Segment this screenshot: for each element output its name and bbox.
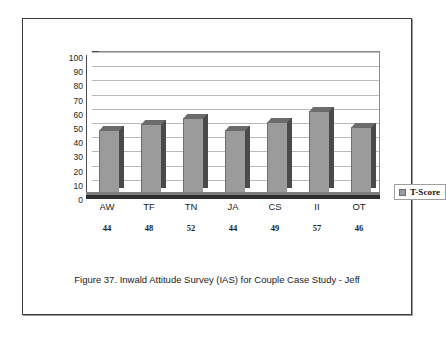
chart-legend: T-Score — [394, 184, 446, 200]
data-value-row: 44485244495746 — [86, 223, 380, 237]
x-axis-labels: AWTFTNJACSIIOT — [86, 201, 380, 215]
bar-top-face — [99, 126, 123, 131]
bar-front-face — [309, 111, 329, 192]
y-axis-tick-label: 90 — [57, 68, 83, 76]
legend-label-t-score: T-Score — [410, 187, 440, 197]
plot-area — [86, 51, 380, 199]
y-axis-tick-label: 20 — [57, 168, 83, 176]
x-axis-tick-label: TN — [170, 201, 212, 213]
gridline — [92, 123, 379, 124]
bar-front-face — [351, 127, 371, 192]
bar-chart: 1009080706050403020100 AWTFTNJACSIIOT 44… — [57, 51, 387, 251]
bar-top-face — [309, 107, 333, 112]
data-value-ii: 57 — [296, 223, 338, 234]
y-axis-tick-label: 70 — [57, 97, 83, 105]
bar-front-face — [267, 122, 287, 192]
gridline — [92, 109, 379, 110]
bar-tf — [141, 124, 161, 192]
x-axis-tick-label: JA — [212, 201, 254, 213]
bar-cs — [267, 122, 287, 192]
document-page-frame: 1009080706050403020100 AWTFTNJACSIIOT 44… — [22, 18, 412, 315]
bar-ot — [351, 127, 371, 192]
x-axis-tick-label: II — [296, 201, 338, 213]
bar-top-face — [141, 120, 165, 125]
gridline — [92, 80, 379, 81]
bar-side-face — [161, 120, 166, 188]
gridline — [92, 95, 379, 96]
bar-side-face — [287, 118, 292, 188]
bar-front-face — [183, 118, 203, 192]
figure-caption: Figure 37. Inwald Attitude Survey (IAS) … — [23, 274, 411, 285]
bar-side-face — [245, 126, 250, 188]
data-value-ja: 44 — [212, 223, 254, 234]
bar-ja — [225, 130, 245, 192]
bar-aw — [99, 130, 119, 192]
data-value-cs: 49 — [254, 223, 296, 234]
x-axis-tick-label: AW — [86, 201, 128, 213]
bar-top-face — [351, 123, 375, 128]
data-value-tn: 52 — [170, 223, 212, 234]
bar-front-face — [141, 124, 161, 192]
data-value-ot: 46 — [338, 223, 380, 234]
gridline — [92, 52, 379, 53]
y-axis-tick-label: 10 — [57, 182, 83, 190]
y-axis-tick-label: 0 — [57, 196, 83, 204]
y-axis-labels: 1009080706050403020100 — [57, 51, 83, 199]
x-axis-tick-label: CS — [254, 201, 296, 213]
bar-side-face — [203, 114, 208, 188]
x-axis-tick-label: TF — [128, 201, 170, 213]
bar-top-face — [225, 126, 249, 131]
data-value-tf: 48 — [128, 223, 170, 234]
y-axis-tick-label: 100 — [57, 54, 83, 62]
bar-side-face — [371, 123, 376, 188]
bar-front-face — [99, 130, 119, 192]
legend-swatch-t-score — [399, 189, 406, 196]
bar-front-face — [225, 130, 245, 192]
x-axis-tick-label: OT — [338, 201, 380, 213]
y-axis-tick-label: 40 — [57, 139, 83, 147]
y-axis-line — [86, 55, 87, 199]
y-axis-tick-label: 80 — [57, 82, 83, 90]
bar-tn — [183, 118, 203, 192]
bar-side-face — [329, 107, 334, 188]
y-axis-tick-label: 60 — [57, 111, 83, 119]
y-axis-tick-label: 50 — [57, 125, 83, 133]
y-axis-tick-label: 30 — [57, 153, 83, 161]
gridline — [92, 66, 379, 67]
bar-side-face — [119, 126, 124, 188]
data-value-aw: 44 — [86, 223, 128, 234]
bar-ii — [309, 111, 329, 192]
plot-floor-front — [86, 195, 380, 199]
